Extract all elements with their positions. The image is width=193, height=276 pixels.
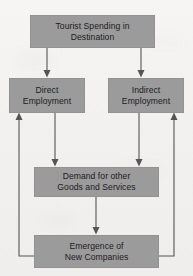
node-indirect-employment: Indirect Employment [108, 78, 184, 113]
node-tourist-spending: Tourist Spending in Destination [30, 15, 155, 48]
node-emergence-new-companies-label: Emergence of New Companies [65, 241, 129, 263]
arrowhead-top-to-indirect [138, 70, 145, 78]
node-indirect-employment-label: Indirect Employment [122, 85, 170, 107]
arrowhead-direct-to-demand [52, 159, 59, 167]
arrowhead-demand-to-emerge [93, 227, 100, 235]
node-direct-employment-label: Direct Employment [23, 85, 71, 107]
arrowhead-top-to-direct [44, 70, 51, 78]
flow-diagram: Tourist Spending in Destination Direct E… [0, 0, 193, 276]
node-tourist-spending-label: Tourist Spending in Destination [55, 21, 129, 43]
node-demand-goods-services-label: Demand for other Goods and Services [57, 171, 135, 193]
edge-emerge-to-direct [19, 120, 34, 256]
node-direct-employment: Direct Employment [9, 78, 85, 113]
arrowhead-indirect-to-demand [136, 159, 143, 167]
edge-emerge-to-indirect [159, 120, 174, 256]
arrowhead-emerge-to-indirect [171, 113, 178, 121]
node-emergence-new-companies: Emergence of New Companies [34, 235, 159, 268]
node-demand-goods-services: Demand for other Goods and Services [34, 167, 159, 197]
arrowhead-emerge-to-direct [16, 113, 23, 121]
